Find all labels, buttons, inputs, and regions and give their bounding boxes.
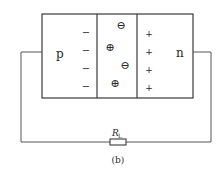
negative-ion-icon: ⊖ <box>116 19 125 32</box>
positive-ion-icon: ⊕ <box>110 77 119 90</box>
p-charge-minus: − <box>82 81 90 92</box>
pn-junction-diagram: p n − − − − + + + + ⊖ ⊕ ⊖ ⊕ R L (b) <box>0 0 223 175</box>
p-region-label: p <box>56 47 64 61</box>
load-resistor <box>110 139 126 145</box>
p-charge-minus: − <box>82 27 90 38</box>
n-charge-plus: + <box>145 47 153 57</box>
positive-ion-icon: ⊕ <box>105 41 114 54</box>
wire-right <box>126 52 211 142</box>
figure-caption: (b) <box>112 155 125 165</box>
resistor-label-subscript: L <box>118 132 122 139</box>
n-charge-plus: + <box>145 83 153 93</box>
n-charge-plus: + <box>145 29 153 39</box>
p-charge-minus: − <box>82 63 90 74</box>
negative-ion-icon: ⊖ <box>120 59 129 72</box>
n-charge-plus: + <box>145 65 153 75</box>
n-region-label: n <box>176 46 184 60</box>
p-charge-minus: − <box>82 45 90 56</box>
